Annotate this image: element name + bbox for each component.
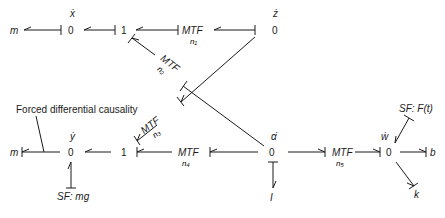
source-mg-label: SF: mg [57,191,90,202]
inertia-label: I [270,192,273,203]
source-ft-label: SF: F(t) [399,103,433,114]
junction-alpha-label: α̇ [271,131,278,142]
mtf5-modulus: n₅ [336,159,344,168]
junction-0-alpha: 0 [269,147,275,158]
causal-stroke [180,81,187,91]
bond-alpha-mtf2 [183,86,264,146]
mtf1-modulus: n₁ [190,37,197,46]
causal-stroke [404,115,414,121]
mtf1-label: MTF [182,25,203,36]
junction-1-bottom: 1 [121,147,127,158]
mass-y-label: m [10,147,18,158]
damper-label: b [430,147,436,158]
bond-w-k [396,162,414,186]
mtf4-modulus: n₄ [182,159,190,168]
spring-label: k [414,189,420,200]
junction-0-w: 0 [386,147,392,158]
junction-x-label: ẋ [69,8,76,19]
bond-sfft-w [395,118,409,143]
bond-graph-diagram: m ẋ 0 1 MTF n₁ ż 0 MTF n₃ MTF n₂ Forced … [0,0,445,218]
junction-z-label: ż [272,8,278,19]
mass-x-label: m [10,25,18,36]
junction-0-z: 0 [272,25,278,36]
bond-mtf2-1 [132,38,155,55]
junction-1-top: 1 [121,25,127,36]
mtf4-label: MTF [178,147,199,158]
mtf5-label: MTF [332,147,353,158]
junction-0-y: 0 [68,147,74,158]
junction-y-label: ẏ [69,131,76,142]
annotation-leader [36,116,44,152]
junction-w-label: ẇ [381,131,389,142]
forced-causality-annotation: Forced differential causality [16,104,138,115]
junction-0-x: 0 [68,25,74,36]
